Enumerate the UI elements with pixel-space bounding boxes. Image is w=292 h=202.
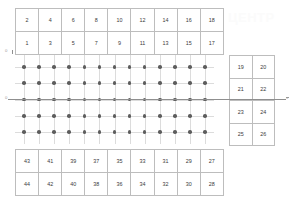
grid-node[interactable] xyxy=(128,130,132,134)
cell[interactable]: 19 xyxy=(230,56,253,79)
cell[interactable]: 6 xyxy=(62,9,85,32)
grid-node[interactable] xyxy=(143,130,147,134)
grid-node[interactable] xyxy=(98,81,102,85)
cell[interactable]: 34 xyxy=(131,173,154,196)
grid-node[interactable] xyxy=(143,81,147,85)
cell[interactable]: 27 xyxy=(200,150,223,173)
grid-node[interactable] xyxy=(188,114,192,118)
table-row: 2 4 6 8 10 12 14 16 18 xyxy=(16,9,224,32)
cell[interactable]: 3 xyxy=(39,32,62,55)
cell[interactable]: 41 xyxy=(39,150,62,173)
cell[interactable]: 36 xyxy=(108,173,131,196)
cell[interactable]: 43 xyxy=(16,150,39,173)
grid-node[interactable] xyxy=(128,65,132,69)
cell[interactable]: 25 xyxy=(230,123,253,146)
cell[interactable]: 29 xyxy=(177,150,200,173)
cell[interactable]: 42 xyxy=(39,173,62,196)
grid-node[interactable] xyxy=(128,81,132,85)
x-axis xyxy=(8,99,286,100)
grid-node[interactable] xyxy=(83,114,87,118)
grid-node[interactable] xyxy=(143,65,147,69)
grid-node[interactable] xyxy=(37,65,41,69)
cell[interactable]: 11 xyxy=(131,32,154,55)
grid-node[interactable] xyxy=(188,65,192,69)
grid-node[interactable] xyxy=(67,65,71,69)
grid-node[interactable] xyxy=(52,81,56,85)
grid-node[interactable] xyxy=(113,114,117,118)
grid-node[interactable] xyxy=(52,130,56,134)
cell[interactable]: 40 xyxy=(62,173,85,196)
grid-node[interactable] xyxy=(22,81,26,85)
cell[interactable]: 12 xyxy=(131,9,154,32)
grid-node[interactable] xyxy=(158,65,162,69)
cell[interactable]: 31 xyxy=(154,150,177,173)
cell[interactable]: 15 xyxy=(177,32,200,55)
cell[interactable]: 24 xyxy=(252,101,275,124)
grid-node[interactable] xyxy=(143,114,147,118)
cell[interactable]: 30 xyxy=(177,173,200,196)
grid-node[interactable] xyxy=(158,114,162,118)
grid-node[interactable] xyxy=(67,114,71,118)
grid-node[interactable] xyxy=(22,130,26,134)
cell[interactable]: 17 xyxy=(200,32,223,55)
grid-node[interactable] xyxy=(158,81,162,85)
cell[interactable]: 10 xyxy=(108,9,131,32)
grid-node[interactable] xyxy=(203,130,207,134)
cell[interactable]: 28 xyxy=(200,173,223,196)
grid-node[interactable] xyxy=(37,81,41,85)
cell[interactable]: 20 xyxy=(252,56,275,79)
cell[interactable]: 5 xyxy=(62,32,85,55)
grid-node[interactable] xyxy=(113,81,117,85)
grid-node[interactable] xyxy=(203,114,207,118)
cell[interactable]: 14 xyxy=(154,9,177,32)
cell[interactable]: 37 xyxy=(85,150,108,173)
grid-node[interactable] xyxy=(52,65,56,69)
grid-node[interactable] xyxy=(158,130,162,134)
grid-node[interactable] xyxy=(203,81,207,85)
cell[interactable]: 8 xyxy=(85,9,108,32)
grid-node[interactable] xyxy=(203,65,207,69)
grid-node[interactable] xyxy=(37,130,41,134)
cell[interactable]: 9 xyxy=(108,32,131,55)
grid-node[interactable] xyxy=(98,130,102,134)
cell[interactable]: 38 xyxy=(85,173,108,196)
cell[interactable]: 13 xyxy=(154,32,177,55)
cell[interactable]: 18 xyxy=(200,9,223,32)
grid-node[interactable] xyxy=(83,81,87,85)
cell[interactable]: 21 xyxy=(230,78,253,101)
grid-node[interactable] xyxy=(22,65,26,69)
cell[interactable]: 2 xyxy=(16,9,39,32)
grid-node[interactable] xyxy=(52,114,56,118)
cell[interactable]: 23 xyxy=(230,101,253,124)
grid-node[interactable] xyxy=(98,65,102,69)
grid-node[interactable] xyxy=(22,114,26,118)
cell[interactable]: 16 xyxy=(177,9,200,32)
grid-node[interactable] xyxy=(98,114,102,118)
grid-node[interactable] xyxy=(67,81,71,85)
grid-node[interactable] xyxy=(128,114,132,118)
grid-node[interactable] xyxy=(173,65,177,69)
grid-node[interactable] xyxy=(113,65,117,69)
cell[interactable]: 44 xyxy=(16,173,39,196)
cell[interactable]: 39 xyxy=(62,150,85,173)
cell[interactable]: 1 xyxy=(16,32,39,55)
grid-node[interactable] xyxy=(173,81,177,85)
grid-node[interactable] xyxy=(173,114,177,118)
cell[interactable]: 7 xyxy=(85,32,108,55)
grid-node[interactable] xyxy=(37,114,41,118)
cell[interactable]: 4 xyxy=(39,9,62,32)
cell[interactable]: 26 xyxy=(252,123,275,146)
cell[interactable]: 35 xyxy=(108,150,131,173)
grid-node[interactable] xyxy=(188,81,192,85)
grid-node[interactable] xyxy=(83,130,87,134)
grid-node[interactable] xyxy=(83,65,87,69)
grid-node[interactable] xyxy=(67,130,71,134)
cell[interactable]: 33 xyxy=(131,150,154,173)
table-row: 1 3 5 7 9 11 13 15 17 xyxy=(16,32,224,55)
cell[interactable]: 22 xyxy=(252,78,275,101)
cell[interactable]: 32 xyxy=(154,173,177,196)
grid-node[interactable] xyxy=(188,130,192,134)
table-row: 19 20 xyxy=(230,56,275,79)
grid-node[interactable] xyxy=(173,130,177,134)
grid-node[interactable] xyxy=(113,130,117,134)
